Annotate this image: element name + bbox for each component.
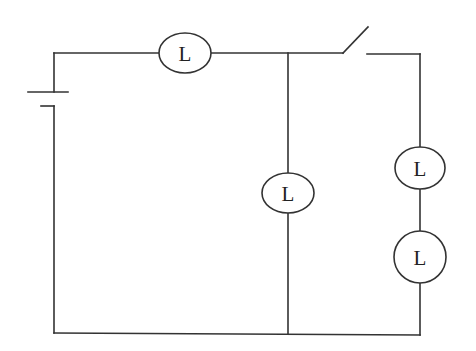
switch-lever — [343, 27, 368, 53]
switch-icon — [343, 27, 368, 53]
lamp-middle: L — [262, 173, 314, 213]
circuit-diagram: L L L L — [0, 0, 476, 351]
lamp-label: L — [414, 246, 427, 270]
lamp-top: L — [159, 33, 211, 73]
lamp-label: L — [179, 42, 192, 66]
lamp-right-lower: L — [394, 231, 446, 283]
lamp-label: L — [414, 157, 427, 181]
battery-icon — [28, 92, 68, 106]
wire-bottom — [54, 333, 420, 335]
lamp-right-upper: L — [395, 147, 445, 189]
lamp-label: L — [282, 182, 295, 206]
